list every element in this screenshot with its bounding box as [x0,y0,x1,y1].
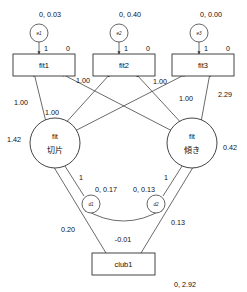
node-fit-intercept-label-line2: 切片 [47,145,63,155]
label-club1-to-slope: 0.13 [171,218,185,227]
label-e1-moments: 0, 0.03 [39,10,61,19]
node-d1-label: d1 [88,202,94,207]
label-club1-moments: 0, 2.92 [174,280,196,289]
node-fit-intercept-label-line1: fit [52,132,59,141]
label-d1-loading: 1 [79,173,83,182]
diagram-canvas: fit1 fit2 fit3 e1 e2 e3 fit 切片 fit 傾き d1… [0,0,247,292]
label-d1-d2-covariance: -0.01 [115,235,131,244]
label-loading-slope-fit3: 2.29 [218,90,232,99]
node-d2-label: d2 [153,202,159,207]
node-club1-label: club1 [115,260,133,269]
node-fit-intercept[interactable] [30,118,80,168]
label-e2-loading: 1 [124,44,128,53]
label-e2-moments: 0, 0.40 [119,10,141,19]
label-fit2-intercept: 0 [146,44,150,53]
label-e3-loading: 1 [204,44,208,53]
label-e1-loading: 1 [44,44,48,53]
label-loading-intercept-fit3: 1.00 [76,76,90,85]
node-fit-slope-label-line1: fit [189,132,196,141]
label-club1-to-intercept: 0.20 [61,225,75,234]
node-e2-label: e2 [116,31,122,36]
label-d2-loading: 1 [164,173,168,182]
label-loading-slope-fit1: 1.00 [179,94,193,103]
node-fit2-label: fit2 [119,61,129,70]
label-slope-variance: 0.42 [223,143,237,152]
label-d2-moments: 0, 0.13 [133,185,155,194]
label-fit1-intercept: 0 [66,44,70,53]
node-fit-slope-label-line2: 傾き [184,146,200,155]
node-fit3-label: fit3 [198,61,208,70]
node-e3-label: e3 [196,31,202,36]
node-fit-slope[interactable] [167,118,217,168]
label-fit3-intercept: 0 [226,44,230,53]
node-e1-label: e1 [36,31,42,36]
label-loading-intercept-fit1: 1.00 [14,98,28,107]
edge-slope-to-fit3 [201,73,210,122]
label-intercept-variance: 1.42 [7,135,21,144]
sem-path-diagram: fit1 fit2 fit3 e1 e2 e3 fit 切片 fit 傾き d1… [0,0,247,292]
node-fit1-label: fit1 [39,61,49,70]
label-e3-moments: 0, 0.00 [200,10,222,19]
label-loading-intercept-fit2: 1.00 [45,108,59,117]
label-loading-slope-fit2: 1.00 [153,77,167,86]
label-d1-moments: 0, 0.17 [95,185,117,194]
